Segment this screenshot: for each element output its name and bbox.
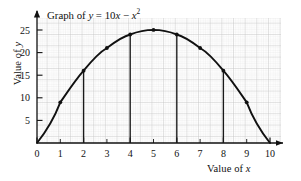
x-tick-label-0: 0	[30, 148, 44, 159]
y-tick-label-5: 5	[12, 115, 30, 126]
chart-title: Graph of y = 10x − x2	[47, 9, 140, 21]
title-exponent: 2	[137, 7, 141, 16]
x-axis-title-variable: x	[246, 163, 251, 174]
y-axis-title-variable: y	[12, 42, 23, 47]
y-tick-label-10: 10	[12, 92, 30, 103]
x-axis-title: Value of x	[207, 163, 251, 174]
x-axis-title-prefix: Value of	[207, 163, 246, 174]
x-tick-label-9: 9	[240, 148, 254, 159]
title-equals: = 10	[93, 9, 115, 21]
x-tick-label-7: 7	[193, 148, 207, 159]
title-prefix: Graph of	[47, 9, 88, 21]
title-minus: −	[120, 9, 132, 21]
x-tick-label-2: 2	[77, 148, 91, 159]
x-tick-label-4: 4	[123, 148, 137, 159]
y-tick-label-15: 15	[12, 70, 30, 81]
y-tick-label-25: 25	[12, 25, 30, 36]
y-axis-title: Value of y	[12, 34, 23, 94]
chart-figure: Graph of y = 10x − x2 Value of y Value o…	[0, 0, 301, 181]
x-tick-label-5: 5	[147, 148, 161, 159]
grid-area	[37, 18, 281, 143]
x-tick-label-3: 3	[100, 148, 114, 159]
x-tick-label-8: 8	[216, 148, 230, 159]
x-tick-label-6: 6	[170, 148, 184, 159]
x-tick-label-1: 1	[53, 148, 67, 159]
x-tick-label-10: 10	[263, 148, 277, 159]
y-tick-label-20: 20	[12, 47, 30, 58]
